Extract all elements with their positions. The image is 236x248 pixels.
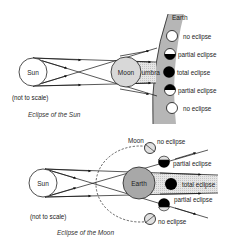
svg-text:no eclipse: no eclipse — [157, 138, 186, 146]
sun-label: Sun — [37, 180, 49, 187]
lunar-state-none-1: no eclipse — [145, 138, 186, 154]
lunar-scale-note: (not to scale) — [30, 213, 66, 221]
solar-eclipse-panel: Sun Moon umbra Earth no eclipse partial … — [12, 14, 217, 124]
earth-label: Earth — [172, 14, 188, 21]
lunar-state-partial-2: partial eclipse — [158, 196, 213, 211]
svg-text:no eclipse: no eclipse — [183, 105, 212, 113]
svg-text:partial eclipse: partial eclipse — [174, 196, 213, 204]
lunar-state-partial-1: partial eclipse — [158, 156, 212, 168]
earth-label: Earth — [131, 180, 147, 187]
svg-text:total eclipse: total eclipse — [177, 69, 211, 77]
moon-label: Moon — [118, 69, 135, 76]
svg-text:partial eclipse: partial eclipse — [173, 160, 212, 168]
svg-text:no eclipse: no eclipse — [158, 218, 187, 226]
svg-text:no eclipse: no eclipse — [183, 33, 212, 41]
eclipse-diagram: Sun Moon umbra Earth no eclipse partial … — [0, 0, 236, 248]
solar-state-total: total eclipse — [163, 66, 211, 78]
solar-state-partial-2: partial eclipse — [165, 85, 217, 96]
svg-text:partial eclipse: partial eclipse — [178, 51, 217, 59]
lunar-eclipse-panel: Sun Earth Moon no eclipse partial eclips… — [29, 137, 218, 237]
solar-state-none-1: no eclipse — [167, 31, 212, 42]
solar-scale-note: (not to scale) — [12, 94, 48, 102]
solar-state-partial-1: partial eclipse — [165, 49, 217, 60]
umbra-label: umbra — [142, 69, 161, 76]
solar-caption: Eclipse of the Sun — [28, 111, 81, 119]
lunar-caption: Eclipse of the Moon — [57, 229, 114, 237]
moon-label: Moon — [128, 137, 144, 144]
lunar-state-none-2: no eclipse — [145, 214, 187, 226]
solar-state-none-2: no eclipse — [167, 103, 212, 114]
sun-label: Sun — [27, 69, 39, 76]
svg-text:total eclipse: total eclipse — [182, 181, 216, 189]
svg-text:partial eclipse: partial eclipse — [178, 87, 217, 95]
